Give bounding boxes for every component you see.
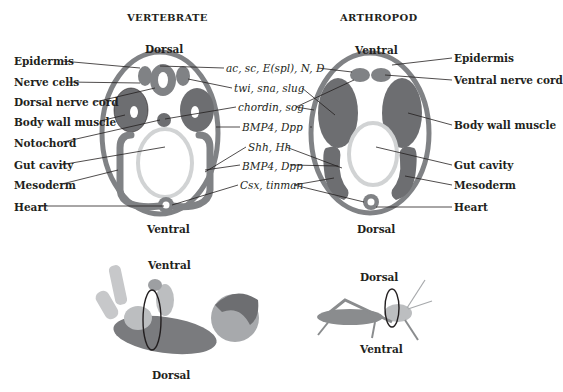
grasshopper-illustration [317, 280, 432, 340]
vertebrate-bottom-label: Ventral [147, 223, 190, 235]
vertebrate-cross-section [102, 52, 218, 214]
label-notochord: Notochord [14, 137, 76, 149]
label-ventral-nerve-cord: Ventral nerve cord [454, 74, 563, 86]
label-nerve-cells: Nerve cells [14, 76, 79, 88]
gene-label-bmp4-dpp-2: BMP4, Dpp [242, 160, 303, 172]
label-gut-cavity: Gut cavity [14, 159, 73, 171]
gene-label-neurogenic: ac, sc, E(spl), N, D [226, 62, 324, 74]
label-body-wall-muscle: Body wall muscle [14, 116, 116, 128]
gene-label-csx-tinman: Csx, tinman [240, 179, 303, 191]
arthropod-bottom-label: Dorsal [357, 223, 395, 235]
label-arthropod-mesoderm: Mesoderm [454, 179, 516, 191]
label-mesoderm: Mesoderm [14, 179, 76, 191]
label-epidermis: Epidermis [14, 55, 74, 67]
label-arthropod-gut-cavity: Gut cavity [454, 159, 513, 171]
baby-bottom-label: Dorsal [152, 369, 190, 381]
label-arthropod-heart: Heart [454, 201, 488, 213]
vertebrate-top-label: Dorsal [145, 43, 183, 55]
label-heart: Heart [14, 201, 48, 213]
gene-label-bmp4-dpp-1: BMP4, Dpp [242, 121, 303, 133]
grasshopper-bottom-label: Ventral [360, 343, 403, 355]
arthropod-top-label: Ventral [355, 44, 398, 56]
gene-label-chordin-sog: chordin, sog [238, 101, 304, 113]
baby-top-label: Ventral [148, 259, 191, 271]
gene-label-shh-hh: Shh, Hh [248, 141, 291, 153]
grasshopper-top-label: Dorsal [360, 271, 398, 283]
human-infant-illustration [93, 264, 259, 360]
label-dorsal-nerve-cord: Dorsal nerve cord [14, 96, 119, 108]
gene-label-twi-sna-slug: twi, sna, slug [234, 82, 305, 94]
label-arthropod-body-wall-muscle: Body wall muscle [454, 119, 556, 131]
label-arthropod-epidermis: Epidermis [454, 52, 514, 64]
